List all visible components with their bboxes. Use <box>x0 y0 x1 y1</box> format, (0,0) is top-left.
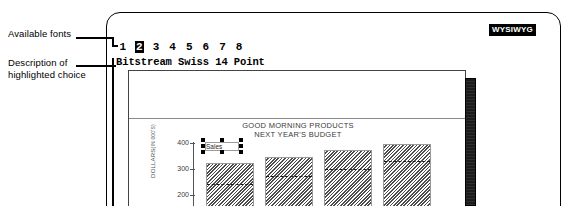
bar-q3-split <box>325 169 371 170</box>
resize-handle-top-left[interactable] <box>201 138 205 142</box>
chart-title: GOOD MORNING PRODUCTS NEXT YEAR'S BUDGET <box>129 121 466 139</box>
bar-q4[interactable] <box>383 144 431 206</box>
y-tick-label-400: 400 <box>163 139 189 147</box>
bar-q4-split <box>384 161 430 162</box>
resize-handle-top-center[interactable] <box>220 138 224 142</box>
font-number-1[interactable]: 1 <box>118 41 128 53</box>
bar-q3[interactable] <box>324 150 372 206</box>
y-tick-mark-200 <box>190 195 195 196</box>
wysiwyg-badge: WYSIWYG <box>489 24 536 36</box>
resize-handle-bottom-right[interactable] <box>239 150 243 154</box>
y-axis-label: DOLLARS(IN 000'S) <box>150 121 156 181</box>
document-vertical-scrollbar[interactable] <box>465 78 476 206</box>
callout-description-of-highlighted-choice: Description of highlighted choice <box>8 57 100 81</box>
y-axis-line <box>193 142 194 206</box>
font-number-list[interactable]: 1 2 3 4 5 6 7 8 <box>118 40 244 54</box>
resize-handle-bottom-left[interactable] <box>201 150 205 154</box>
document-page[interactable]: GOOD MORNING PRODUCTS NEXT YEAR'S BUDGET… <box>128 70 466 206</box>
bar-q2-split <box>266 176 312 177</box>
y-axis-label-units: (IN 000'S) <box>150 124 156 148</box>
chart-title-line1: GOOD MORNING PRODUCTS <box>242 121 354 130</box>
y-axis-label-main: DOLLARS <box>150 148 156 177</box>
resize-handle-middle-left[interactable] <box>201 144 205 148</box>
screenshot-root: Available fonts Description of highlight… <box>0 0 563 206</box>
bar-q1-split <box>207 184 253 185</box>
y-tick-label-300: 300 <box>163 165 189 173</box>
bar-q1[interactable] <box>206 163 254 206</box>
font-number-4[interactable]: 4 <box>168 41 178 53</box>
chart-area[interactable]: GOOD MORNING PRODUCTS NEXT YEAR'S BUDGET… <box>129 118 466 206</box>
font-number-5[interactable]: 5 <box>184 41 194 53</box>
chart-subtitle: NEXT YEAR'S BUDGET <box>129 130 466 139</box>
y-tick-label-200: 200 <box>163 191 189 199</box>
resize-handle-bottom-center[interactable] <box>220 150 224 154</box>
bar-q2[interactable] <box>265 157 313 206</box>
font-description-text: Bitstream Swiss 14 Point <box>116 56 265 68</box>
y-tick-mark-400 <box>190 143 195 144</box>
chart-top-rule <box>129 118 466 119</box>
resize-handle-top-right[interactable] <box>239 138 243 142</box>
resize-handle-middle-right[interactable] <box>239 144 243 148</box>
y-tick-mark-300 <box>190 169 195 170</box>
font-number-2[interactable]: 2 <box>135 41 145 53</box>
selected-legend-object[interactable]: Sales <box>201 138 243 154</box>
font-number-7[interactable]: 7 <box>218 41 228 53</box>
font-number-6[interactable]: 6 <box>201 41 211 53</box>
font-number-3[interactable]: 3 <box>151 41 161 53</box>
font-number-8[interactable]: 8 <box>234 41 244 53</box>
